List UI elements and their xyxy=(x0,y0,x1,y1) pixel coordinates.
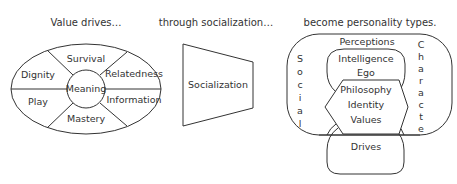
drive-meaning: Meaning xyxy=(66,83,107,94)
svg-text:i: i xyxy=(299,92,302,103)
header-value-drives: Value drives… xyxy=(50,17,121,28)
character-vertical-label: C h a r a c t e r xyxy=(418,39,425,134)
svg-text:c: c xyxy=(418,99,423,110)
ego-label: Ego xyxy=(357,67,375,78)
svg-text:a: a xyxy=(418,87,424,98)
drive-play: Play xyxy=(28,96,48,107)
header-personality-types: become personality types. xyxy=(304,17,437,28)
svg-text:r: r xyxy=(419,75,423,86)
header-socialization: through socialization… xyxy=(159,17,273,28)
drives-label: Drives xyxy=(351,141,381,152)
socialization-label: Socialization xyxy=(188,79,248,90)
svg-text:C: C xyxy=(418,39,425,50)
svg-text:h: h xyxy=(418,51,424,62)
personality-diagram: Value drives… through socialization… bec… xyxy=(0,0,457,184)
svg-text:S: S xyxy=(297,53,303,64)
perceptions-label: Perceptions xyxy=(339,36,394,47)
svg-text:t: t xyxy=(419,111,423,122)
social-vertical-label: S o c i a l xyxy=(297,53,303,129)
svg-text:c: c xyxy=(297,79,302,90)
intelligence-label: Intelligence xyxy=(338,53,393,64)
svg-text:l: l xyxy=(299,118,302,129)
drive-relatedness: Relatedness xyxy=(105,68,163,79)
drive-mastery: Mastery xyxy=(67,113,105,124)
svg-text:a: a xyxy=(418,63,424,74)
drives-arc-left xyxy=(327,124,336,135)
values-label: Values xyxy=(350,114,381,125)
drive-information: Information xyxy=(107,94,162,105)
drive-survival: Survival xyxy=(67,53,105,64)
philosophy-label: Philosophy xyxy=(340,84,392,95)
svg-text:o: o xyxy=(297,66,303,77)
svg-text:a: a xyxy=(297,105,303,116)
identity-label: Identity xyxy=(348,99,385,110)
drive-dignity: Dignity xyxy=(21,69,55,80)
svg-text:e: e xyxy=(418,123,424,134)
